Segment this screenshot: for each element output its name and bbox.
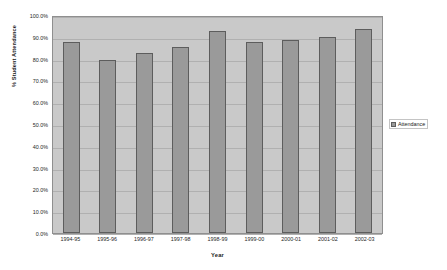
x-axis-title: Year [52, 252, 383, 258]
x-axis-tick-labels: 1994-951995-961996-971997-981998-991999-… [52, 236, 383, 247]
bar-slot [272, 17, 309, 233]
y-axis-tick-label: 30.0% [6, 166, 48, 172]
legend: Attendance [389, 119, 428, 129]
x-axis-tick-label: 1998-99 [199, 236, 236, 247]
y-axis-tick-labels: 0.0%10.0%20.0%30.0%40.0%50.0%60.0%70.0%8… [6, 16, 50, 234]
x-axis-tick-label: 1999-00 [236, 236, 273, 247]
x-axis-tick-label: 1997-98 [162, 236, 199, 247]
y-axis-tick-label: 40.0% [6, 144, 48, 150]
bar-slot [309, 17, 346, 233]
x-axis-tick-label: 1994-95 [52, 236, 89, 247]
y-axis-tick-label: 60.0% [6, 100, 48, 106]
y-axis-tick-label: 70.0% [6, 78, 48, 84]
bar [209, 31, 226, 233]
x-axis-tick-label: 2001-02 [309, 236, 346, 247]
bar [136, 53, 153, 233]
bar-slot [53, 17, 90, 233]
bar [99, 60, 116, 233]
y-axis-tick-label: 0.0% [6, 231, 48, 237]
bar [172, 47, 189, 233]
bar [63, 42, 80, 233]
bar-slot [236, 17, 273, 233]
plot-area [52, 16, 383, 234]
bar-chart: % Student Attendance 0.0%10.0%20.0%30.0%… [0, 0, 447, 270]
gridline [53, 234, 382, 235]
bar [282, 40, 299, 233]
y-axis-tick-label: 20.0% [6, 187, 48, 193]
bar [246, 42, 263, 233]
y-axis-tick-label: 90.0% [6, 35, 48, 41]
bar [319, 37, 336, 233]
x-axis-tick-label: 1996-97 [126, 236, 163, 247]
y-axis-tick-label: 50.0% [6, 122, 48, 128]
legend-label-attendance: Attendance [398, 121, 425, 127]
bar-slot [199, 17, 236, 233]
bars-layer [53, 17, 382, 233]
legend-swatch-attendance [391, 122, 396, 127]
y-axis-tick-label: 100.0% [6, 13, 48, 19]
bar [355, 29, 372, 233]
bar-slot [126, 17, 163, 233]
y-axis-tick-label: 10.0% [6, 209, 48, 215]
bar-slot [163, 17, 200, 233]
bar-slot [90, 17, 127, 233]
bar-slot [346, 17, 383, 233]
x-axis-tick-label: 1995-96 [89, 236, 126, 247]
y-axis-tick-label: 80.0% [6, 57, 48, 63]
x-axis-tick-label: 2000-01 [273, 236, 310, 247]
x-axis-tick-label: 2002-03 [346, 236, 383, 247]
